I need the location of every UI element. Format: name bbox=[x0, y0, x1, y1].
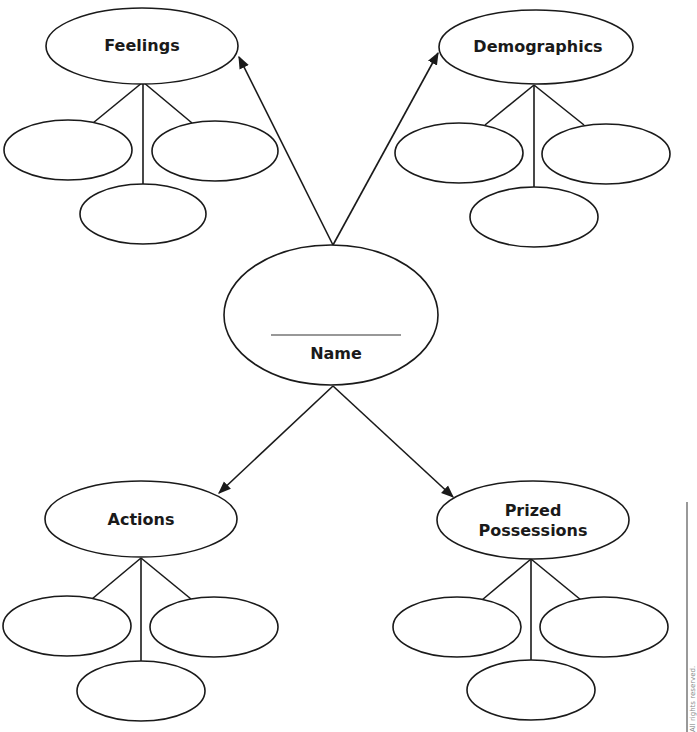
prized-possessions-detail-right[interactable] bbox=[540, 597, 668, 657]
prized-possessions-detail-left[interactable] bbox=[393, 597, 521, 657]
actions-label: Actions bbox=[108, 510, 175, 529]
actions-detail-left[interactable] bbox=[3, 596, 131, 656]
prized-possessions-detail-bottom[interactable] bbox=[467, 660, 595, 720]
connector bbox=[482, 559, 531, 600]
actions-detail-bottom[interactable] bbox=[77, 661, 205, 721]
category-demographics: Demographics bbox=[395, 10, 670, 247]
category-prized-possessions: Prized Possessions bbox=[393, 481, 668, 720]
connector bbox=[534, 85, 584, 125]
actions-detail-right[interactable] bbox=[150, 597, 278, 657]
name-label: Name bbox=[310, 344, 362, 363]
category-actions: Actions bbox=[3, 481, 278, 721]
connector bbox=[485, 85, 534, 125]
character-web-diagram: Feelings Demographics Name Actions bbox=[0, 0, 697, 732]
center-name: Name bbox=[224, 245, 438, 385]
connector bbox=[531, 559, 581, 600]
name-node[interactable] bbox=[224, 245, 438, 385]
connector bbox=[93, 82, 143, 123]
feelings-detail-bottom[interactable] bbox=[80, 184, 206, 244]
demographics-label: Demographics bbox=[473, 37, 602, 56]
connector bbox=[141, 558, 191, 599]
connector bbox=[143, 82, 192, 123]
arrow-to-actions bbox=[219, 386, 333, 493]
arrow-to-prized-possessions bbox=[333, 386, 453, 497]
copyright-side-note: All rights reserved. bbox=[689, 666, 697, 732]
demographics-detail-left[interactable] bbox=[395, 123, 523, 183]
demographics-detail-right[interactable] bbox=[542, 124, 670, 184]
connector bbox=[92, 558, 141, 599]
feelings-detail-left[interactable] bbox=[4, 120, 132, 180]
prized-possessions-label-line2: Possessions bbox=[478, 521, 587, 540]
feelings-detail-right[interactable] bbox=[152, 121, 278, 181]
demographics-detail-bottom[interactable] bbox=[470, 187, 598, 247]
prized-possessions-node[interactable] bbox=[437, 481, 629, 559]
prized-possessions-label-line1: Prized bbox=[505, 501, 562, 520]
feelings-label: Feelings bbox=[104, 36, 179, 55]
category-feelings: Feelings bbox=[4, 8, 278, 244]
